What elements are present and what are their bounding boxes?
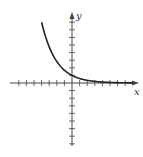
axes (10, 12, 139, 146)
x-axis-label: x (134, 86, 140, 97)
chart-plot: y x (0, 0, 143, 157)
decay-curve (42, 22, 133, 83)
y-axis-label: y (75, 10, 82, 21)
